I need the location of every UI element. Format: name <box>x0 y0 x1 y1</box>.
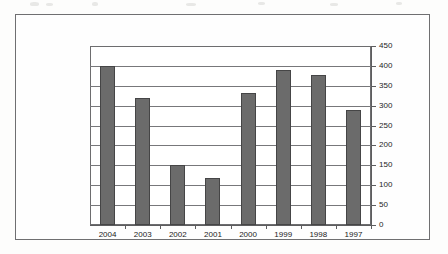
bar <box>346 110 361 225</box>
scan-artifact <box>330 3 338 6</box>
value-axis-tick <box>371 205 376 206</box>
category-tick <box>231 225 232 229</box>
category-tick <box>336 225 337 229</box>
value-axis-tick <box>371 106 376 107</box>
value-axis-label: 350 <box>379 82 392 90</box>
bar <box>100 66 115 225</box>
value-axis-tick <box>371 46 376 47</box>
gridline <box>90 66 371 67</box>
screenshot-root: 450400350300250200150100500 200420032002… <box>0 0 448 254</box>
bar <box>241 93 256 225</box>
value-axis-label: 250 <box>379 122 392 130</box>
scan-artifact <box>30 2 39 6</box>
scan-artifact <box>92 2 98 6</box>
category-label: 2001 <box>204 231 222 239</box>
plot-border <box>90 46 371 225</box>
value-axis-label: 400 <box>379 62 392 70</box>
gridline <box>90 205 371 206</box>
scan-artifact <box>258 2 265 5</box>
scan-artifact <box>46 3 53 6</box>
value-axis-label: 100 <box>379 181 392 189</box>
value-axis-label: 0 <box>379 221 383 229</box>
bar <box>311 75 326 225</box>
gridline <box>90 185 371 186</box>
value-axis-label: 50 <box>379 201 388 209</box>
category-label: 1999 <box>274 231 292 239</box>
value-axis-tick <box>371 126 376 127</box>
scan-artifact <box>186 3 196 6</box>
value-axis-label: 200 <box>379 141 392 149</box>
figure-frame: 450400350300250200150100500 200420032002… <box>15 14 430 240</box>
value-axis-tick <box>371 185 376 186</box>
category-tick <box>125 225 126 229</box>
gridline <box>90 165 371 166</box>
bar <box>170 165 185 225</box>
gridline <box>90 126 371 127</box>
gridline <box>90 86 371 87</box>
category-label: 2003 <box>134 231 152 239</box>
gridline <box>90 145 371 146</box>
category-tick <box>266 225 267 229</box>
gridline <box>90 106 371 107</box>
bar <box>205 178 220 225</box>
scan-artifact <box>396 2 402 5</box>
category-tick <box>301 225 302 229</box>
value-axis-line <box>371 46 372 225</box>
category-label: 2002 <box>169 231 187 239</box>
value-axis-label: 300 <box>379 102 392 110</box>
value-axis-label: 450 <box>379 42 392 50</box>
value-axis-label: 150 <box>379 161 392 169</box>
category-label: 2000 <box>239 231 257 239</box>
bar <box>276 70 291 225</box>
chart-plot-area: 450400350300250200150100500 200420032002… <box>90 46 371 225</box>
value-axis-tick <box>371 165 376 166</box>
value-axis-tick <box>371 86 376 87</box>
category-tick <box>195 225 196 229</box>
value-axis-tick <box>371 66 376 67</box>
value-axis-tick <box>371 145 376 146</box>
category-label: 1998 <box>309 231 327 239</box>
category-tick <box>371 225 372 229</box>
category-label: 1997 <box>345 231 363 239</box>
category-tick <box>160 225 161 229</box>
bar <box>135 98 150 225</box>
category-label: 2004 <box>99 231 117 239</box>
